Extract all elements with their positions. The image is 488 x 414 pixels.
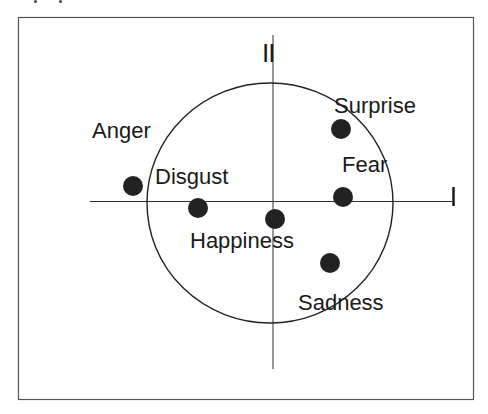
label-surprise: Surprise: [334, 95, 416, 117]
point-happiness: [265, 209, 285, 229]
label-anger: Anger: [92, 120, 151, 142]
label-sadness: Sadness: [298, 292, 384, 314]
point-surprise: [331, 119, 351, 139]
circumplex-circle: [147, 83, 393, 323]
label-happiness: Happiness: [190, 230, 294, 252]
point-sadness: [320, 253, 340, 273]
figure-frame: [19, 18, 474, 400]
point-disgust: [188, 198, 208, 218]
label-fear: Fear: [342, 154, 387, 176]
point-fear: [333, 187, 353, 207]
emotion-circumplex-figure: II Anger Disgust Happiness Surprise Fear…: [0, 0, 488, 414]
diagram-canvas: [0, 0, 488, 414]
label-disgust: Disgust: [155, 166, 228, 188]
point-anger: [123, 176, 143, 196]
axis-label-ii: II: [262, 40, 274, 66]
